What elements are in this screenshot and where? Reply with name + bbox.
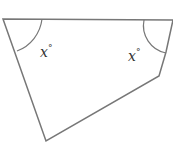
angle-arc-right bbox=[143, 20, 166, 53]
angle-label-right: x° bbox=[128, 48, 140, 63]
angle-variable: x bbox=[40, 44, 48, 60]
angle-arc-left bbox=[17, 19, 42, 51]
geometry-diagram: x° x° bbox=[0, 0, 173, 146]
polygon-figure bbox=[0, 0, 173, 146]
degree-symbol: ° bbox=[136, 47, 141, 57]
degree-symbol: ° bbox=[48, 43, 53, 53]
angle-label-left: x° bbox=[40, 44, 52, 59]
pentagon-outline bbox=[3, 19, 173, 141]
angle-variable: x bbox=[128, 48, 136, 64]
